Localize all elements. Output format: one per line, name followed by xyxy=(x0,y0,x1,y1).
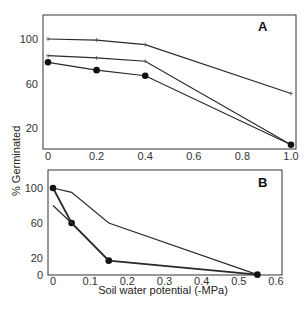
plus-marker xyxy=(95,56,99,60)
x-tick-label: 0.8 xyxy=(235,150,250,162)
y-tick-label: 100 xyxy=(20,33,38,45)
panel-b-label: B xyxy=(258,175,267,190)
y-tick-label: 20 xyxy=(26,122,38,134)
circle-marker xyxy=(45,59,52,66)
circle-marker xyxy=(254,271,261,278)
x-tick-label: 0 xyxy=(45,150,51,162)
x-tick-label: 0.1 xyxy=(83,275,98,287)
series-line xyxy=(53,188,257,275)
x-axis-label: Soil water potential (-MPa) xyxy=(98,284,228,296)
x-tick-label: 0.4 xyxy=(138,150,153,162)
circle-marker xyxy=(142,72,149,79)
circle-marker xyxy=(50,185,57,192)
y-tick-label: 20 xyxy=(31,252,43,264)
circle-marker xyxy=(93,67,100,74)
plus-marker xyxy=(143,43,147,47)
y-tick-label: 0 xyxy=(37,269,43,281)
circle-marker xyxy=(288,141,295,148)
series-line xyxy=(53,188,257,275)
y-tick-label: 100 xyxy=(25,182,43,194)
series-line xyxy=(48,39,291,94)
plus-marker xyxy=(46,37,50,41)
y-axis-label: % Germinated xyxy=(10,126,22,196)
panel-a-label: A xyxy=(258,19,268,34)
panel-b-axes: 00.10.20.30.40.50.602060100 xyxy=(25,182,284,287)
plus-marker xyxy=(289,92,293,96)
panel-a-axes: 00.20.40.60.81.02060100 xyxy=(20,33,299,162)
series-line xyxy=(53,206,109,261)
plus-marker xyxy=(95,38,99,42)
panel-b-frame xyxy=(48,170,282,275)
x-tick-label: 0.6 xyxy=(186,150,201,162)
panel-a-series xyxy=(45,37,295,148)
x-tick-label: 0.2 xyxy=(89,150,104,162)
figure: 00.20.40.60.81.02060100 A 00.10.20.30.40… xyxy=(0,0,306,309)
x-tick-label: 0.5 xyxy=(231,275,246,287)
series-line xyxy=(48,56,291,145)
y-tick-label: 60 xyxy=(26,78,38,90)
x-tick-label: 0 xyxy=(50,275,56,287)
y-tick-label: 60 xyxy=(31,217,43,229)
x-tick-label: 1.0 xyxy=(283,150,298,162)
plus-marker xyxy=(46,54,50,58)
panel-b-series xyxy=(50,185,261,278)
x-tick-label: 0.6 xyxy=(268,275,283,287)
